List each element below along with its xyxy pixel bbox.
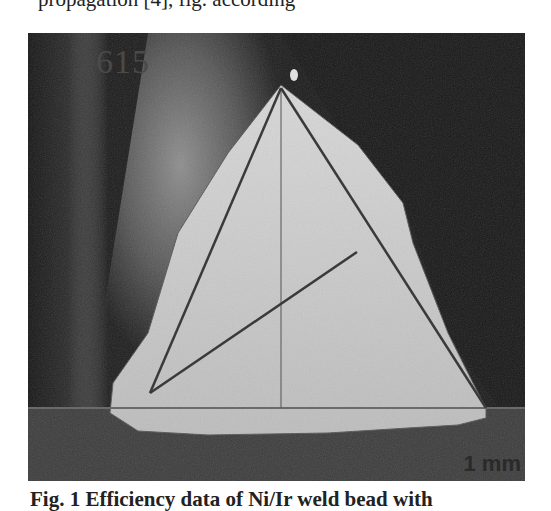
scale-bar-label: 1 mm xyxy=(464,451,521,477)
micrograph-svg xyxy=(28,33,525,481)
preceding-text-line: propagation [4], fig. according xyxy=(0,0,551,11)
apex-artifact xyxy=(290,69,298,81)
figure-caption: Fig. 1 Efficiency data of Ni/Ir weld bea… xyxy=(0,487,551,511)
weld-micrograph: 615 1 mm xyxy=(28,33,525,481)
sample-label: 615 xyxy=(96,43,150,81)
